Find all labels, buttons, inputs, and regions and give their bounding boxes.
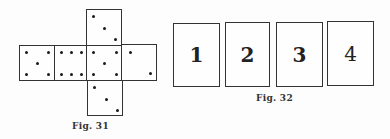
pip: [115, 51, 118, 54]
die-face-bottom: [87, 80, 123, 116]
pip: [103, 27, 106, 30]
pip: [92, 51, 95, 54]
card-number: 4: [328, 42, 373, 66]
die-face-right: [121, 44, 157, 81]
pip: [36, 62, 39, 65]
card-number: 1: [174, 43, 219, 67]
die-face-left: [19, 45, 55, 81]
card-number: 3: [277, 43, 322, 67]
pip: [80, 73, 83, 76]
pip: [47, 73, 50, 76]
pip: [149, 72, 152, 75]
pip: [129, 51, 132, 54]
pip: [80, 51, 83, 54]
pip: [92, 15, 95, 18]
pip: [47, 51, 50, 54]
pip: [70, 51, 73, 54]
card-4: 4: [327, 21, 374, 86]
pip: [115, 73, 118, 76]
card-3: 3: [276, 22, 323, 87]
fig32-caption: Fig. 32: [256, 93, 293, 103]
pip: [25, 73, 28, 76]
fig31-caption: Fig. 31: [72, 121, 109, 131]
die-face-left-middle: [54, 45, 88, 81]
card-number: 2: [226, 43, 269, 67]
pip: [114, 38, 117, 41]
die-face-top: [86, 9, 122, 46]
pip: [60, 51, 63, 54]
pip: [25, 51, 28, 54]
card-1: 1: [173, 23, 220, 87]
pip: [70, 73, 73, 76]
pip: [92, 73, 95, 76]
pip: [103, 62, 106, 65]
pip: [93, 86, 96, 89]
die-face-center: [86, 45, 122, 81]
pip: [105, 98, 108, 101]
pip: [60, 73, 63, 76]
card-2: 2: [225, 22, 270, 87]
pip: [116, 109, 119, 112]
